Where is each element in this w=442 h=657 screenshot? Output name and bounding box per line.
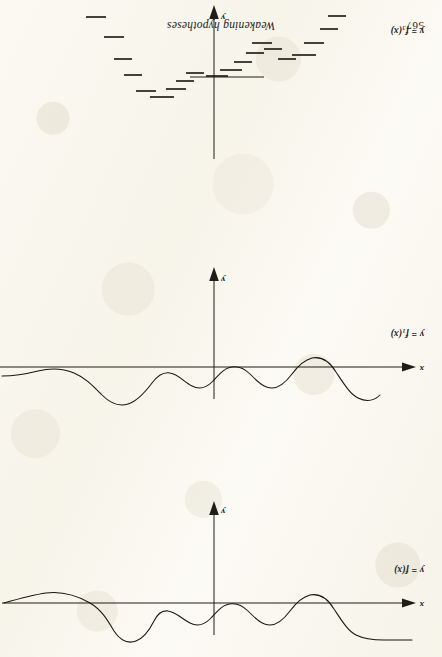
figure-f1-x-axis-label: x [420, 364, 425, 374]
figure-f-label-text: y = f(x) [394, 565, 424, 575]
figure-f1-curve-label: y = f₁(x) [390, 329, 424, 339]
figure-f-curve-label: y = f(x) [394, 565, 424, 575]
figure-f1-curve [2, 358, 380, 405]
figure-f-x-axis [2, 599, 416, 608]
figure-f: x y y = f(x) [0, 493, 442, 643]
figure-f-y-axis-label: y [221, 507, 225, 517]
figure-f-x-axis-label: x [420, 600, 425, 610]
figure-f1-y-axis-label: y [221, 275, 225, 285]
figure-f-curve [4, 592, 412, 641]
rotated-page-content: x y y = f(x) x y y = f₁(x) [0, 0, 442, 657]
page-footer: 567 Weakening hypotheses [0, 0, 442, 40]
figure-f1: x y y = f₁(x) [0, 257, 442, 407]
running-head: Weakening hypotheses [0, 20, 442, 32]
figure-f1-label-text: y = f₁(x) [390, 329, 424, 339]
